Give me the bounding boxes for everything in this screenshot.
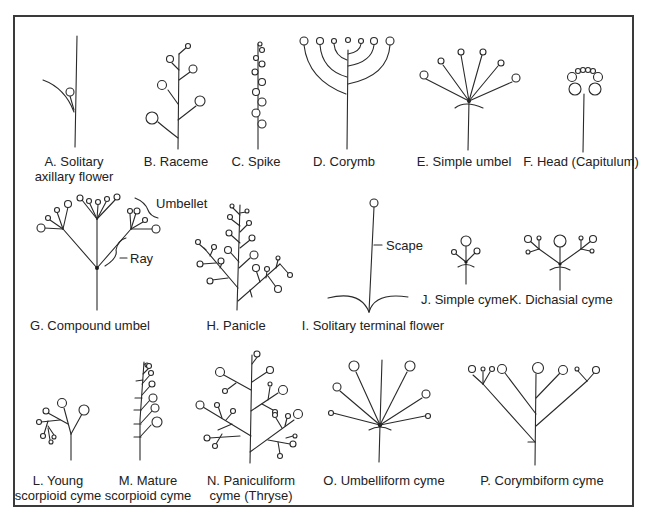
diagram-simple-cyme: [452, 236, 481, 284]
diagram-young-scorpioid-cyme: [37, 399, 90, 461]
label-f: F. Head (Capitulum): [523, 154, 639, 169]
label-l-line1: L. Young: [15, 473, 102, 488]
label-i-line1: I. Solitary terminal flower: [302, 318, 444, 333]
label-a: A. Solitary axillary flower: [35, 154, 114, 184]
diagram-solitary-axillary-flower: [43, 36, 77, 147]
label-p: P. Corymbiform cyme: [480, 473, 603, 488]
label-p-line1: P. Corymbiform cyme: [480, 473, 603, 488]
label-a-line1: A. Solitary: [35, 154, 114, 169]
annotation-umbellet: Umbellet: [156, 196, 207, 211]
diagram-paniculiform-cyme: [196, 351, 303, 463]
label-l-line2: scorpioid cyme: [15, 488, 102, 503]
annotation-scape: Scape: [386, 238, 423, 253]
label-e-line1: E. Simple umbel: [417, 154, 512, 169]
label-g-line1: G. Compound umbel: [30, 318, 150, 333]
label-h-line1: H. Panicle: [206, 318, 265, 333]
label-e: E. Simple umbel: [417, 154, 512, 169]
label-m: M. Mature scorpioid cyme: [105, 473, 192, 503]
label-a-line2: axillary flower: [35, 169, 114, 184]
label-m-line1: M. Mature: [105, 473, 192, 488]
label-d: D. Corymb: [313, 154, 375, 169]
figure-frame: [14, 16, 633, 506]
diagram-dichasial-cyme: [525, 235, 597, 290]
label-n: N. Paniculiform cyme (Thryse): [207, 473, 295, 503]
label-f-line1: F. Head (Capitulum): [523, 154, 639, 169]
diagram-head-capitulum: [568, 68, 603, 153]
label-b: B. Raceme: [144, 154, 208, 169]
label-n-line2: cyme (Thryse): [207, 488, 295, 503]
label-k-line1: K. Dichasial cyme: [509, 292, 612, 307]
label-h: H. Panicle: [206, 318, 265, 333]
label-l: L. Young scorpioid cyme: [15, 473, 102, 503]
diagram-solitary-terminal-flower: [328, 199, 408, 312]
label-b-line1: B. Raceme: [144, 154, 208, 169]
diagram-simple-umbel: [420, 49, 520, 150]
label-j-line1: J. Simple cyme: [421, 292, 509, 307]
diagram-spike: [252, 42, 266, 149]
annotation-ray: Ray: [130, 251, 153, 266]
label-i: I. Solitary terminal flower: [302, 318, 444, 333]
label-j: J. Simple cyme: [421, 292, 509, 307]
diagram-mature-scorpioid-cyme: [134, 362, 162, 460]
diagram-panicle: [196, 204, 293, 310]
label-d-line1: D. Corymb: [313, 154, 375, 169]
label-g: G. Compound umbel: [30, 318, 150, 333]
diagram-raceme: [146, 44, 205, 150]
label-n-line1: N. Paniculiform: [207, 473, 295, 488]
label-k: K. Dichasial cyme: [509, 292, 612, 307]
diagram-corymbiform-cyme: [469, 363, 600, 466]
label-c-line1: C. Spike: [231, 154, 280, 169]
diagram-corymb: [300, 37, 394, 149]
diagram-umbelliform-cyme: [329, 360, 431, 462]
label-m-line2: scorpioid cyme: [105, 488, 192, 503]
inflorescence-diagram: [0, 0, 647, 524]
label-o-line1: O. Umbelliform cyme: [323, 473, 444, 488]
label-o: O. Umbelliform cyme: [323, 473, 444, 488]
label-c: C. Spike: [231, 154, 280, 169]
